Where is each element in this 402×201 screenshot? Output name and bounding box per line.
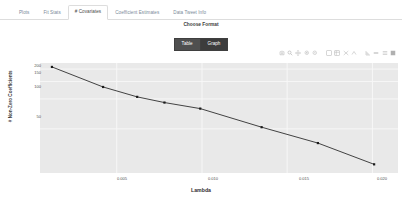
tab-data-tweet-info[interactable]: Data Tweet Info: [166, 6, 213, 20]
hover-closest-icon[interactable]: [351, 50, 357, 56]
app-root: Plots Fit Stats # Covariates Coefficient…: [0, 0, 402, 201]
y-tick-0: 200: [34, 64, 41, 68]
spike-lines-icon[interactable]: [373, 50, 379, 56]
y-tick-2: 100: [34, 85, 41, 89]
tab-covariates[interactable]: # Covariates: [68, 5, 108, 20]
format-button-group: Table Graph: [174, 38, 229, 51]
x-tick-1: 0.010: [208, 177, 218, 181]
plotly-modebar: [279, 50, 396, 56]
graph-format-button[interactable]: Graph: [200, 38, 229, 51]
table-format-button[interactable]: Table: [174, 38, 200, 51]
legend-toggle-icon[interactable]: [382, 50, 388, 56]
data-point-marker[interactable]: [373, 163, 375, 165]
autoscale-icon[interactable]: [326, 50, 332, 56]
tab-bar: Plots Fit Stats # Covariates Coefficient…: [0, 0, 402, 20]
data-point-marker[interactable]: [261, 126, 263, 128]
pan-icon[interactable]: [295, 50, 301, 56]
reset-axes-icon[interactable]: [334, 50, 340, 56]
x-axis-title: Lambda: [0, 188, 402, 193]
x-tick-0: 0.005: [117, 177, 127, 181]
data-point-marker[interactable]: [51, 66, 53, 68]
x-tick-3: 0.020: [377, 177, 387, 181]
series-line: [52, 67, 374, 164]
y-axis-title: # Non-Zero Coefficients: [9, 61, 14, 131]
data-point-marker[interactable]: [102, 86, 104, 88]
zoom-out-icon[interactable]: [312, 50, 318, 56]
data-point-marker[interactable]: [136, 96, 138, 98]
series-layer: [40, 63, 398, 173]
chart-region: # Non-Zero Coefficients 200 150 100 50 0…: [0, 58, 402, 201]
zoom-box-icon[interactable]: [287, 50, 293, 56]
series-markers[interactable]: [51, 66, 375, 166]
tab-coefficient-estimates[interactable]: Coefficient Estimates: [108, 6, 166, 20]
x-tick-2: 0.015: [299, 177, 309, 181]
data-point-marker[interactable]: [163, 101, 165, 103]
tab-fit-stats[interactable]: Fit Stats: [36, 6, 67, 20]
zoom-in-icon[interactable]: [304, 50, 310, 56]
series-svg[interactable]: [40, 63, 398, 173]
y-tick-3: 50: [36, 115, 41, 119]
tab-plots[interactable]: Plots: [12, 6, 36, 20]
plotly-logo-icon[interactable]: [390, 50, 396, 56]
y-tick-1: 150: [34, 71, 41, 75]
hover-compare-icon[interactable]: [343, 50, 349, 56]
data-point-marker[interactable]: [199, 108, 201, 110]
data-point-marker[interactable]: [317, 142, 319, 144]
camera-icon[interactable]: [279, 50, 285, 56]
choose-format-label: Choose Format: [0, 23, 402, 28]
choose-format-block: Choose Format Table Graph: [0, 23, 402, 51]
toggle-spikelines-icon[interactable]: [365, 50, 371, 56]
